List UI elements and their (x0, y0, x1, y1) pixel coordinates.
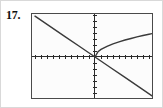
graph-plot-svg (32, 14, 152, 98)
square-root-curve (95, 33, 152, 57)
problem-number-label: 17. (6, 8, 20, 22)
calculator-graph-figure: 17. (0, 0, 163, 108)
graph-plot-frame (31, 13, 153, 99)
